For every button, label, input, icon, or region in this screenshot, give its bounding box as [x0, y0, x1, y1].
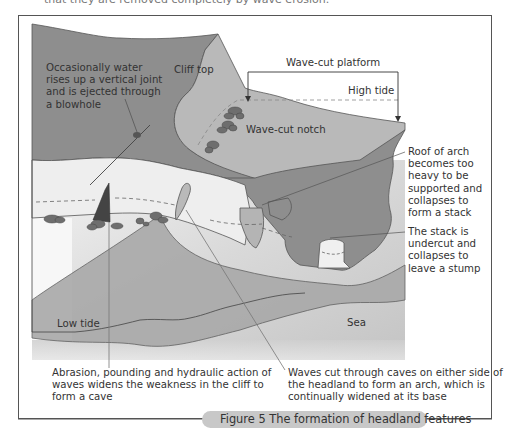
- label-wave-cut-notch: Wave-cut notch: [246, 124, 326, 136]
- figure-caption: Figure 5 The formation of headland featu…: [202, 411, 427, 428]
- label-high-tide: High tide: [348, 85, 394, 97]
- label-low-tide: Low tide: [57, 318, 100, 330]
- label-stack: Roof of arch becomes too heavy to be sup…: [408, 146, 482, 219]
- blowhole-marker: [133, 132, 141, 138]
- label-arch: Waves cut through caves on either side o…: [288, 367, 503, 404]
- label-wave-cut-platform: Wave-cut platform: [286, 57, 380, 69]
- label-stump: The stack is undercut and collapses to l…: [408, 226, 481, 275]
- label-cave: Abrasion, pounding and hydraulic action …: [52, 367, 271, 404]
- label-cliff-top: Cliff top: [174, 64, 214, 76]
- label-sea: Sea: [347, 317, 366, 329]
- label-blowhole: Occasionally water rises up a vertical j…: [46, 62, 162, 111]
